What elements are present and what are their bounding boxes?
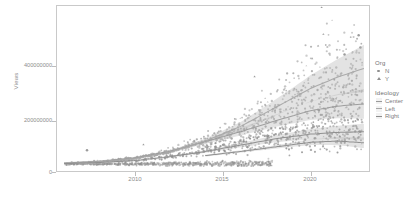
- legend-label: N: [385, 68, 389, 74]
- legend-item-org-y[interactable]: Y: [375, 75, 389, 83]
- triangle-marker-icon: [375, 75, 383, 83]
- chart-figure: Views 400000000 200000000 0 2010 2015 20…: [0, 0, 412, 200]
- legend-label: Center: [385, 98, 403, 104]
- legend-item-ideology-left[interactable]: Left: [375, 105, 403, 113]
- scatter-plot-svg: [57, 6, 370, 172]
- legend-org-title: Org: [375, 60, 389, 66]
- x-tick-label: 2020: [290, 176, 330, 182]
- plot-panel: [56, 5, 370, 172]
- legend-label: Right: [385, 113, 399, 119]
- legend-ideology-title: Ideology: [375, 90, 403, 96]
- legend-item-ideology-right[interactable]: Right: [375, 113, 403, 121]
- y-axis-title: Views: [13, 51, 19, 111]
- color-swatch-icon: [375, 105, 383, 113]
- circle-marker-icon: [375, 68, 383, 76]
- legend-ideology: Ideology Center Left Right: [375, 90, 403, 120]
- y-tick-label: 400000000: [24, 62, 52, 68]
- color-swatch-icon: [375, 113, 383, 121]
- x-tick-label: 2015: [202, 176, 242, 182]
- legend-item-org-n[interactable]: N: [375, 68, 389, 76]
- y-tick-label: 200000000: [24, 117, 52, 123]
- color-swatch-icon: [375, 98, 383, 106]
- x-tick-label: 2010: [115, 176, 155, 182]
- legend-org: Org N Y: [375, 60, 389, 83]
- legend-label: Left: [385, 106, 395, 112]
- legend-item-ideology-center[interactable]: Center: [375, 98, 403, 106]
- legend-label: Y: [385, 76, 389, 82]
